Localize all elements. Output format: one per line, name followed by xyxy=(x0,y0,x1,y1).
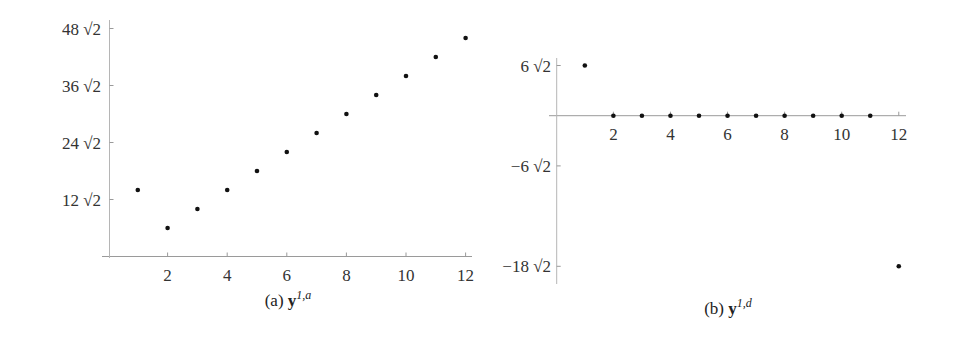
data-point xyxy=(314,131,319,136)
y-tick-label: 6 √2 xyxy=(520,57,551,76)
y-tick-label: −6 √2 xyxy=(511,157,551,176)
x-tick-label: 10 xyxy=(398,266,415,285)
data-point xyxy=(285,150,290,155)
data-point xyxy=(344,112,349,117)
data-point xyxy=(434,55,439,60)
data-point xyxy=(811,113,816,118)
x-tick-label: 10 xyxy=(833,125,850,144)
data-point xyxy=(754,113,759,118)
x-tick-label: 6 xyxy=(283,266,292,285)
data-point xyxy=(668,113,673,118)
y-tick-label: 24 √2 xyxy=(62,134,101,153)
x-tick-label: 2 xyxy=(609,125,618,144)
caption-superscript: 1,d xyxy=(737,296,753,310)
data-point xyxy=(255,169,260,174)
panel-caption: (b) y1,d xyxy=(704,296,753,318)
data-point xyxy=(195,207,200,212)
x-tick-label: 8 xyxy=(780,125,789,144)
panel-a-scatter-plot: 2468101212 √224 √236 √248 √2(a) y1,a xyxy=(62,20,474,311)
x-tick-label: 6 xyxy=(723,125,732,144)
data-point xyxy=(868,113,873,118)
data-point xyxy=(611,113,616,118)
data-point xyxy=(839,113,844,118)
x-tick-label: 4 xyxy=(223,266,232,285)
panel-b-scatter-plot: 246810126 √2−6 √2−18 √2(b) y1,d xyxy=(502,57,907,319)
caption-prefix: (b) xyxy=(704,299,728,318)
data-point xyxy=(583,63,588,68)
figure: 2468101212 √224 √236 √248 √2(a) y1,a 246… xyxy=(0,0,954,340)
x-tick-label: 2 xyxy=(163,266,172,285)
data-point xyxy=(404,74,409,79)
x-tick-label: 12 xyxy=(457,266,474,285)
y-tick-label: −18 √2 xyxy=(502,257,551,276)
data-point xyxy=(374,93,379,98)
y-tick-label: 36 √2 xyxy=(62,77,101,96)
panel-caption: (a) y1,a xyxy=(265,288,312,310)
data-point xyxy=(463,36,468,41)
y-tick-label: 48 √2 xyxy=(62,20,101,39)
data-point xyxy=(136,188,141,193)
x-tick-label: 12 xyxy=(890,125,907,144)
y-tick-label: 12 √2 xyxy=(62,191,101,210)
data-point xyxy=(782,113,787,118)
data-point xyxy=(896,264,901,269)
caption-superscript: 1,a xyxy=(296,288,311,302)
caption-prefix: (a) xyxy=(265,291,288,310)
data-point xyxy=(165,226,170,231)
data-point xyxy=(640,113,645,118)
x-tick-label: 4 xyxy=(666,125,675,144)
data-point xyxy=(725,113,730,118)
data-point xyxy=(225,188,230,193)
x-tick-label: 8 xyxy=(342,266,351,285)
data-point xyxy=(697,113,702,118)
